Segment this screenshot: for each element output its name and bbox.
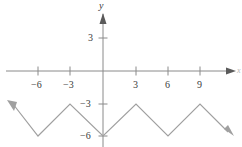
x-tick-label-3: 3 <box>133 80 138 90</box>
x-tick-label-6: 6 <box>165 80 170 90</box>
x-axis-arrowhead <box>226 68 236 75</box>
x-tick-label--6: −6 <box>31 80 42 90</box>
x-axis-label: x <box>237 67 241 75</box>
y-tick-label-3: 3 <box>88 33 93 43</box>
curve-right-arrowhead <box>224 125 234 136</box>
y-tick-label--3: −3 <box>80 99 91 109</box>
curve-left-arrowhead <box>7 100 17 111</box>
triangle-wave-curve <box>13 104 228 136</box>
graph-figure: y x −6 −3 3 6 9 3 −3 −6 <box>0 0 242 147</box>
x-tick-label--3: −3 <box>63 80 74 90</box>
x-tick-label-9: 9 <box>197 80 202 90</box>
y-tick-label--6: −6 <box>80 131 91 141</box>
y-axis-label: y <box>99 1 103 11</box>
y-axis-arrowhead <box>100 13 107 24</box>
coordinate-plane-svg <box>0 0 242 147</box>
